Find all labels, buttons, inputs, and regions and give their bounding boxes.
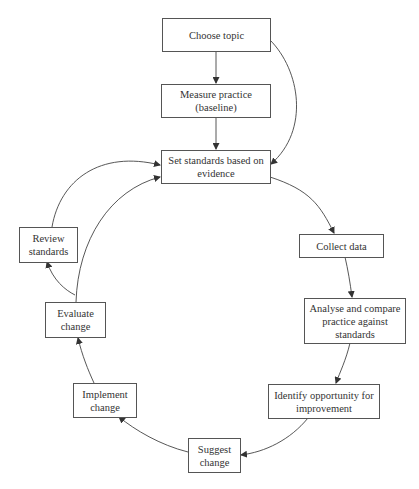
- node-review-standards: Review standards: [19, 227, 78, 263]
- node-suggest-change: Suggest change: [188, 438, 241, 473]
- edge-evaluate-to-set: [76, 177, 160, 302]
- node-label: Identify opportunity for improvement: [272, 389, 376, 415]
- edge-collect-to-analyse: [345, 257, 352, 297]
- node-choose-topic: Choose topic: [162, 18, 271, 52]
- edge-set-to-collect: [270, 177, 334, 233]
- node-label: Choose topic: [189, 29, 244, 42]
- node-evaluate-change: Evaluate change: [45, 302, 106, 338]
- node-label: Analyse and compare practice against sta…: [308, 302, 402, 341]
- node-identify-opportunity: Identify opportunity for improvement: [268, 384, 380, 419]
- node-label: Evaluate change: [49, 307, 102, 333]
- node-implement-change: Implement change: [73, 383, 137, 418]
- edge-choose-to-set: [270, 40, 297, 164]
- node-measure-practice: Measure practice (baseline): [161, 84, 271, 118]
- edge-implement-to-evaluate: [78, 338, 94, 383]
- edge-identify-to-suggest: [241, 418, 308, 455]
- edge-review-to-set: [52, 161, 160, 227]
- node-label: Suggest change: [192, 443, 237, 469]
- edge-analise-to-identify: [336, 343, 350, 383]
- edge-evaluate-to-review: [47, 262, 75, 295]
- node-set-standards: Set standards based on evidence: [161, 150, 271, 184]
- node-analyse-compare: Analyse and compare practice against sta…: [304, 298, 406, 344]
- node-label: Measure practice (baseline): [165, 88, 267, 114]
- node-label: Review standards: [23, 232, 74, 258]
- node-label: Collect data: [316, 240, 366, 253]
- node-label: Implement change: [77, 388, 133, 414]
- node-label: Set standards based on evidence: [165, 154, 267, 180]
- edge-suggest-to-implement: [119, 417, 188, 452]
- node-collect-data: Collect data: [299, 234, 384, 258]
